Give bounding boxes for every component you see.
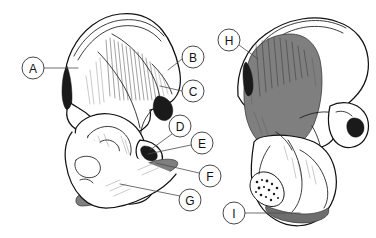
callout-d[interactable]: D xyxy=(169,115,191,137)
callout-letter-d: D xyxy=(176,120,185,134)
illustration-canvas: ABCDEFGHI xyxy=(0,0,376,238)
callout-letter-e: E xyxy=(198,137,206,151)
callout-g[interactable]: G xyxy=(179,189,201,211)
callout-h[interactable]: H xyxy=(218,29,240,51)
callout-b[interactable]: B xyxy=(182,46,204,68)
callout-e[interactable]: E xyxy=(191,132,213,154)
anatomical-figure: ABCDEFGHI xyxy=(0,0,376,238)
callout-letter-f: F xyxy=(206,170,213,184)
callout-letter-g: G xyxy=(185,194,194,208)
callout-c[interactable]: C xyxy=(182,80,204,102)
callout-a[interactable]: A xyxy=(22,57,44,79)
callout-i[interactable]: I xyxy=(223,202,245,224)
callout-f[interactable]: F xyxy=(199,165,221,187)
callout-letter-i: I xyxy=(232,207,235,221)
callout-letter-b: B xyxy=(189,51,197,65)
callout-letter-h: H xyxy=(225,34,234,48)
pubic-tubercle-shadow xyxy=(347,118,364,137)
callout-letter-c: C xyxy=(189,85,198,99)
callout-letter-a: A xyxy=(29,62,37,76)
